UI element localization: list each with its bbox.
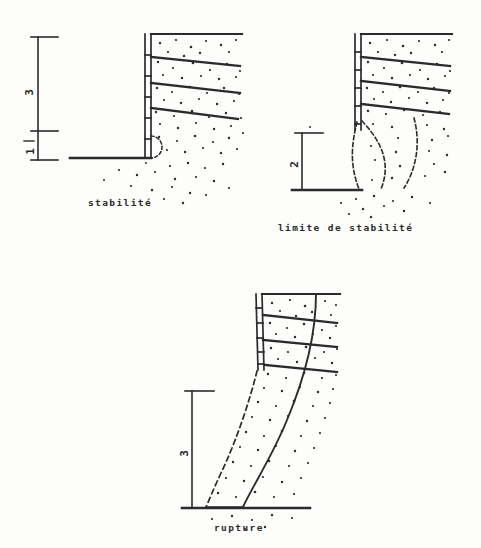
wall-facing-panel-3 bbox=[256, 294, 264, 370]
caption-limite-de-stabilite: limite de stabilité bbox=[278, 222, 413, 233]
scale-bar-panel-1 bbox=[24, 37, 58, 160]
reinforcement-layers-panel-2 bbox=[361, 57, 450, 114]
scale-label-panel-1-upper: 3 bbox=[23, 89, 36, 96]
reinforced-wall-stages-figure bbox=[0, 0, 481, 548]
reinforcement-layers-panel-1 bbox=[151, 57, 240, 119]
wall-facing-panel-1 bbox=[145, 34, 151, 158]
caption-stabilite: stabilité bbox=[88, 197, 152, 208]
panel-limite-de-stabilite bbox=[292, 34, 452, 218]
scale-label-panel-2: 2 bbox=[288, 161, 301, 168]
panel-stabilite bbox=[24, 34, 244, 204]
toe-arc-panel-1 bbox=[151, 136, 162, 158]
failure-curve-far-panel-2 bbox=[404, 118, 417, 188]
scale-label-panel-3: 3 bbox=[178, 450, 191, 457]
soil-speckles-panel-3 bbox=[211, 299, 338, 530]
soil-speckles-panel-2 bbox=[309, 39, 451, 218]
caption-rupture: rupture bbox=[214, 522, 264, 533]
scale-label-panel-1-lower: 1 bbox=[24, 148, 37, 155]
failure-curve-inner-panel-2 bbox=[352, 122, 359, 189]
failure-surface-solid-panel-3 bbox=[243, 294, 316, 507]
reinforcement-layers-panel-3 bbox=[263, 315, 337, 372]
panel-rupture bbox=[182, 294, 340, 530]
failure-curve-outer-panel-2 bbox=[362, 121, 385, 189]
